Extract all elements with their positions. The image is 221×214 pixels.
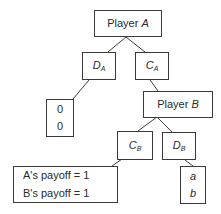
b-defect-move: DB — [162, 132, 196, 160]
a-defect-move: DA — [82, 52, 116, 80]
cooperate-payoff-box: A's payoff = 1 B's payoff = 1 — [13, 166, 118, 203]
defect-payoff-box: 0 0 — [46, 99, 74, 137]
player-a-node: Player A — [94, 10, 162, 37]
a-cooperate-move: CA — [135, 52, 169, 80]
b-cooperate-move: CB — [117, 131, 153, 160]
b-defect-payoff-box: a b — [180, 166, 206, 204]
player-b-node: Player B — [143, 91, 213, 118]
